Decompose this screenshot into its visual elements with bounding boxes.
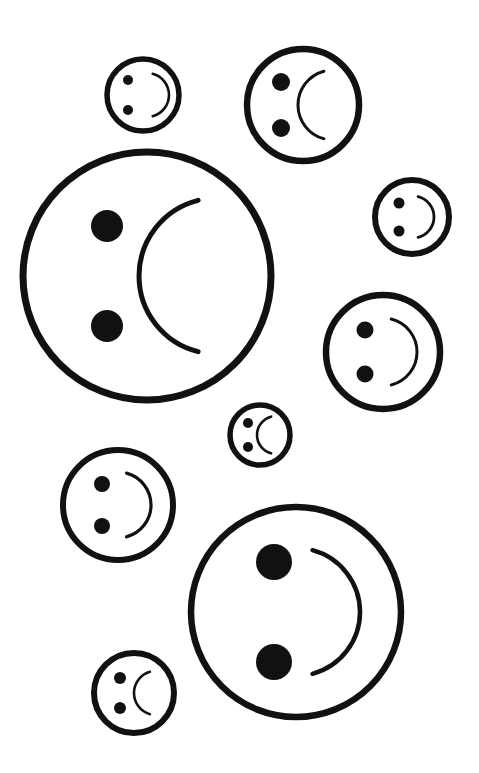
face-eye-lower xyxy=(94,518,110,534)
face-eye-lower xyxy=(91,310,123,342)
face-eye-upper xyxy=(357,322,374,339)
page-background xyxy=(0,0,479,773)
face-eye-upper xyxy=(114,672,126,684)
face-eye-upper xyxy=(94,476,110,492)
face-eye-upper xyxy=(394,198,405,209)
face-eye-lower xyxy=(394,226,405,237)
face-eye-lower xyxy=(114,702,126,714)
face-eye-lower xyxy=(256,644,292,680)
faces-svg xyxy=(0,0,479,773)
face-eye-lower xyxy=(123,105,133,115)
face-eye-upper xyxy=(272,73,290,91)
face-eye-lower xyxy=(243,442,253,452)
face-eye-lower xyxy=(357,366,374,383)
face-eye-upper xyxy=(123,75,133,85)
face-eye-lower xyxy=(272,119,290,137)
face-eye-upper xyxy=(256,544,292,580)
face-eye-upper xyxy=(91,210,123,242)
face-eye-upper xyxy=(243,418,253,428)
illustration-canvas xyxy=(0,0,479,773)
